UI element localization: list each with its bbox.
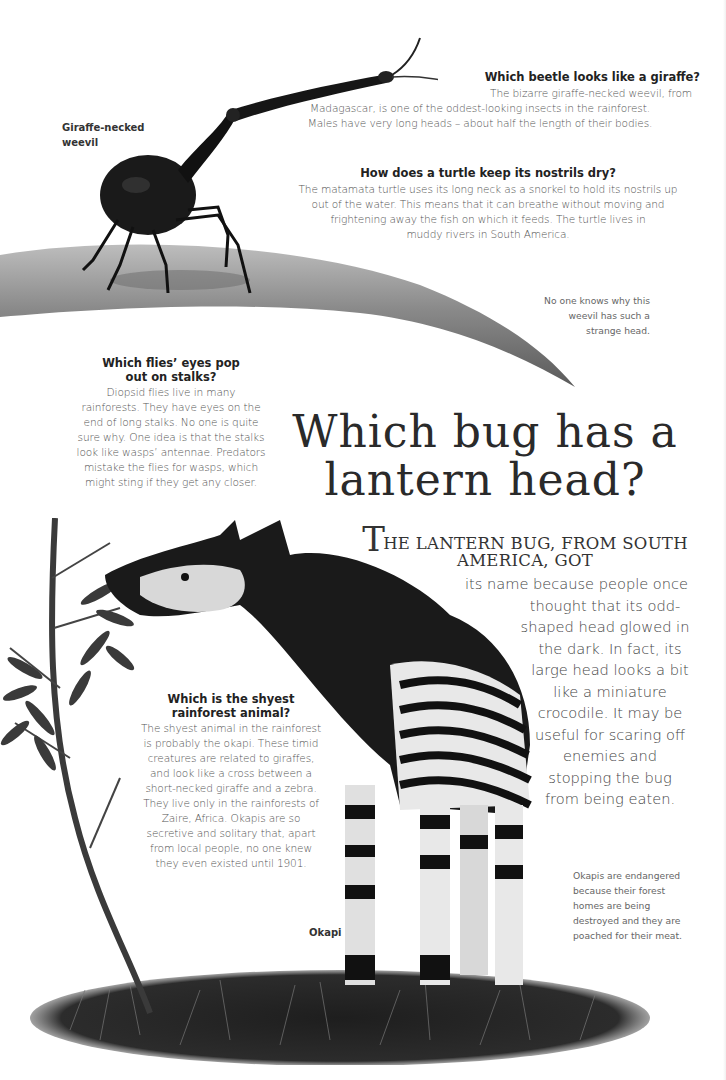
- flies-answer-line: rainforests. They have eyes on the: [68, 400, 274, 415]
- main-body-line: thought that its odd-: [455, 595, 695, 617]
- beetle-answer-line: Madagascar, is one of the oddest-looking…: [270, 101, 690, 116]
- main-body-line: like a miniature: [455, 681, 695, 703]
- okapi-caption-line: destroyed and they are: [573, 913, 713, 928]
- lead-line: THE LANTERN BUG, FROM SOUTH: [360, 526, 690, 552]
- okapi-label: Okapi: [309, 925, 342, 940]
- main-body-line: shaped head glowed in: [455, 616, 695, 638]
- weevil-label: Giraffe-necked weevil: [62, 120, 145, 150]
- flies-answer-line: Diopsid flies live in many: [68, 385, 274, 400]
- weevil-caption-line: weevil has such a: [520, 308, 650, 323]
- main-body-line: crocodile. It may be: [455, 702, 695, 724]
- okapi-answer-line: The shyest animal in the rainforest: [128, 721, 334, 736]
- drop-cap: T: [362, 519, 385, 559]
- okapi-answer-line: Zaire, Africa. Okapis are so: [128, 811, 334, 826]
- flies-question-heading: out on stalks?: [68, 370, 274, 384]
- flies-question-heading: Which flies’ eyes pop: [68, 356, 274, 370]
- main-body-line: large head looks a bit: [455, 659, 695, 681]
- okapi-answer-line: creatures are related to giraffes,: [128, 751, 334, 766]
- book-page: Giraffe-necked weevil Which beetle looks…: [0, 0, 726, 1080]
- okapi-answer-line: and look like a cross between a: [128, 766, 334, 781]
- weevil-label-line: weevil: [62, 135, 145, 150]
- okapi-question-heading: Which is the shyest: [128, 692, 334, 706]
- beetle-answer: The bizarre giraffe-necked weevil, from: [280, 86, 692, 101]
- okapi-answer-line: is probably the okapi. These timid: [128, 736, 334, 751]
- weevil-caption-line: strange head.: [520, 323, 650, 338]
- okapi-question-heading: rainforest animal?: [128, 706, 334, 720]
- okapi-answer-line: from local people, no one knew: [128, 841, 334, 856]
- okapi-answer-line: they even existed until 1901.: [128, 856, 334, 871]
- main-body-line: its name because people once: [465, 573, 695, 595]
- lead-text: THE LANTERN BUG, FROM SOUTH AMERICA, GOT: [360, 526, 690, 569]
- beetle-answer-line: Males have very long heads – about half …: [270, 116, 690, 131]
- main-body-line: stopping the bug: [455, 767, 695, 789]
- turtle-question-heading: How does a turtle keep its nostrils dry?: [270, 166, 706, 180]
- weevil-caption: No one knows why this weevil has such a …: [520, 293, 650, 338]
- turtle-answer-line: out of the water. This means that it can…: [270, 197, 706, 212]
- weevil-label-line: Giraffe-necked: [62, 120, 145, 135]
- okapi-caption-line: Okapis are endangered: [573, 868, 713, 883]
- main-body-line: enemies and: [455, 745, 695, 767]
- beetle-answer-line: The bizarre giraffe-necked weevil, from: [280, 86, 692, 101]
- flies-answer-line: mistake the flies for wasps, which: [68, 460, 274, 475]
- turtle-answer-line: frightening away the fish on which it fe…: [270, 212, 706, 227]
- okapi-caption-line: because their forest: [573, 883, 713, 898]
- beetle-question-block: Which beetle looks like a giraffe?: [280, 70, 700, 84]
- okapi-caption-line: poached for their meat.: [573, 928, 713, 943]
- main-body-line: from being eaten.: [455, 788, 695, 810]
- turtle-answer-line: The matamata turtle uses its long neck a…: [270, 182, 706, 197]
- beetle-answer-cont: Madagascar, is one of the oddest-looking…: [270, 101, 690, 131]
- flies-answer-line: end of long stalks. No one is quite: [68, 415, 274, 430]
- main-body-line: the dark. In fact, its: [455, 638, 695, 660]
- okapi-answer-line: They live only in the rainforests of: [128, 796, 334, 811]
- flies-question-block: Which flies’ eyes pop out on stalks? Dio…: [68, 356, 274, 490]
- flies-answer-line: might sting if they get any closer.: [68, 475, 274, 490]
- okapi-caption: Okapis are endangered because their fore…: [573, 868, 713, 943]
- flies-answer-line: look like wasps’ antennae. Predators: [68, 445, 274, 460]
- okapi-question-block: Which is the shyest rainforest animal? T…: [128, 692, 334, 871]
- lead-line: AMERICA, GOT: [360, 552, 690, 569]
- main-body-line: useful for scaring off: [455, 724, 695, 746]
- main-body-text: its name because people once thought tha…: [455, 573, 695, 810]
- okapi-caption-line: homes are being: [573, 898, 713, 913]
- beetle-question-heading: Which beetle looks like a giraffe?: [280, 70, 700, 84]
- main-title-line: lantern head?: [280, 456, 690, 504]
- turtle-answer-line: muddy rivers in South America.: [270, 227, 706, 242]
- weevil-caption-line: No one knows why this: [520, 293, 650, 308]
- okapi-answer-line: secretive and solitary that, apart: [128, 826, 334, 841]
- turtle-question-block: How does a turtle keep its nostrils dry?…: [270, 166, 706, 242]
- main-title: Which bug has a lantern head?: [280, 408, 690, 504]
- okapi-answer-line: short-necked giraffe and a zebra.: [128, 781, 334, 796]
- flies-answer-line: sure why. One idea is that the stalks: [68, 430, 274, 445]
- main-title-line: Which bug has a: [280, 408, 690, 456]
